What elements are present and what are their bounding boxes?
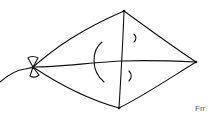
bow-loop-upper: [28, 57, 38, 68]
kite-outline: [33, 11, 196, 108]
kite-edge-bottom-right: [119, 62, 196, 108]
kite-tail-string: [0, 67, 33, 82]
small-arc-mark-lower: [129, 71, 131, 81]
small-arc-mark-upper: [134, 34, 136, 42]
horizontal-spar: [33, 61, 196, 67]
kite-edge-top-right: [124, 11, 196, 62]
vertex-top: [123, 10, 125, 12]
vertex-bottom: [118, 107, 120, 109]
vertex-right: [195, 61, 197, 63]
caption-text: Frr: [195, 104, 205, 113]
bow-loop-lower: [30, 67, 39, 77]
vertical-spar: [119, 11, 124, 108]
kite-edge-bottom-left: [33, 67, 119, 108]
kite-drawing: Frr: [0, 0, 210, 113]
kite-edge-top-left: [33, 11, 124, 67]
kite-sketch-svg: [0, 0, 210, 113]
